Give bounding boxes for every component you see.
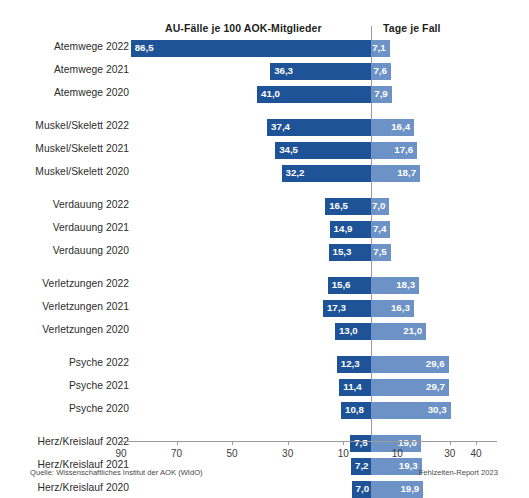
- row-label: Verletzungen 2021: [0, 301, 129, 312]
- bar-left: 14,9: [330, 221, 371, 238]
- bar-left: 10,8: [341, 402, 371, 419]
- bar-right: 7,0: [371, 198, 389, 215]
- bar-right-value: 29,7: [426, 381, 445, 392]
- bar-right-value: 17,6: [394, 144, 413, 155]
- bar-right-value: 21,0: [403, 325, 422, 336]
- bar-row: Verdauung 202015,37,5: [0, 244, 529, 261]
- axis-tick: [450, 441, 451, 445]
- bar-left-value: 12,3: [341, 358, 360, 369]
- axis-tick: [177, 441, 178, 445]
- bar-right-value: 7,5: [373, 246, 386, 257]
- bar-left-value: 11,4: [343, 381, 361, 392]
- bar-row: Psyche 202111,429,7: [0, 379, 529, 396]
- left-axis-title: AU-Fälle je 100 AOK-Mitglieder: [165, 22, 322, 34]
- bar-right: 18,3: [371, 277, 419, 294]
- bar-right-value: 7,0: [372, 200, 385, 211]
- axis-tick: [343, 441, 344, 445]
- bar-right: 7,9: [371, 86, 392, 103]
- row-label: Muskel/Skelett 2020: [0, 166, 129, 177]
- bar-left: 13,0: [335, 323, 371, 340]
- bar-row: Muskel/Skelett 202134,517,6: [0, 142, 529, 159]
- axis-tick: [121, 441, 122, 445]
- row-label: Atemwege 2022: [0, 41, 129, 52]
- bar-right: 16,4: [371, 119, 414, 136]
- bar-left-value: 15,6: [332, 279, 351, 290]
- row-label: Verdauung 2021: [0, 222, 129, 233]
- bar-left: 32,2: [282, 165, 371, 182]
- bar-right-value: 18,7: [397, 167, 416, 178]
- x-axis: 9070503010103040: [0, 441, 529, 471]
- bar-right: 7,1: [371, 40, 390, 57]
- bar-right: 29,7: [371, 379, 449, 396]
- bar-right: 29,6: [371, 356, 449, 373]
- bar-left-value: 10,8: [345, 404, 364, 415]
- bar-left: 17,3: [323, 300, 371, 317]
- report-note: Fehlzeiten-Report 2023: [419, 468, 498, 477]
- bar-left-value: 16,5: [329, 200, 348, 211]
- axis-tick-label: 50: [227, 448, 238, 459]
- bar-left: 36,3: [270, 63, 371, 80]
- bar-right-value: 29,6: [426, 358, 445, 369]
- bar-right: 17,6: [371, 142, 417, 159]
- row-label: Psyche 2021: [0, 380, 129, 391]
- bar-left-value: 36,3: [274, 65, 293, 76]
- bar-right-value: 7,6: [373, 65, 386, 76]
- bar-row: Verdauung 202216,57,0: [0, 198, 529, 215]
- bar-left-value: 32,2: [286, 167, 305, 178]
- bar-row: Atemwege 202286,57,1: [0, 40, 529, 57]
- bar-right-value: 30,3: [428, 404, 447, 415]
- row-label: Psyche 2022: [0, 357, 129, 368]
- axis-tick-label: 90: [115, 448, 126, 459]
- axis-tick-label: 30: [444, 448, 455, 459]
- bar-left: 15,6: [328, 277, 371, 294]
- bar-left: 12,3: [337, 356, 371, 373]
- bar-left-value: 34,5: [279, 144, 298, 155]
- bar-row: Verdauung 202114,97,4: [0, 221, 529, 238]
- bar-row: Atemwege 202136,37,6: [0, 63, 529, 80]
- bar-right: 30,3: [371, 402, 451, 419]
- axis-tick: [288, 441, 289, 445]
- axis-tick-label: 30: [282, 448, 293, 459]
- axis-tick: [397, 441, 398, 445]
- bar-right-value: 19,9: [400, 483, 419, 494]
- bar-left-value: 7,0: [356, 483, 369, 494]
- row-label: Atemwege 2020: [0, 87, 129, 98]
- bar-right: 7,5: [371, 244, 391, 261]
- bar-left-value: 37,4: [271, 121, 290, 132]
- bar-row: Atemwege 202041,07,9: [0, 86, 529, 103]
- bar-left: 15,3: [329, 244, 372, 261]
- bar-row: Verletzungen 202013,021,0: [0, 323, 529, 340]
- bar-right: 7,6: [371, 63, 391, 80]
- bar-row: Psyche 202212,329,6: [0, 356, 529, 373]
- chart-figure: AU-Fälle je 100 AOK-Mitglieder Tage je F…: [0, 0, 529, 498]
- bar-left-value: 17,3: [327, 302, 346, 313]
- bar-left: 34,5: [275, 142, 371, 159]
- bar-row: Muskel/Skelett 202237,416,4: [0, 119, 529, 136]
- source-note: Quelle: Wissenschaftliches Institut der …: [30, 468, 203, 477]
- bar-left: 86,5: [131, 40, 371, 57]
- row-label: Muskel/Skelett 2021: [0, 143, 129, 154]
- bar-right-value: 7,1: [372, 42, 385, 53]
- bar-right-value: 16,4: [391, 121, 410, 132]
- axis-tick-label: 10: [338, 448, 349, 459]
- bar-left: 11,4: [339, 379, 371, 396]
- axis-tick-label: 10: [392, 448, 403, 459]
- bar-left-value: 13,0: [339, 325, 358, 336]
- axis-tick: [476, 441, 477, 445]
- bar-right-value: 7,4: [373, 223, 386, 234]
- row-label: Psyche 2020: [0, 403, 129, 414]
- chart-footer: Quelle: Wissenschaftliches Institut der …: [0, 468, 529, 484]
- axis-tick: [232, 441, 233, 445]
- bar-left-value: 14,9: [334, 223, 353, 234]
- bar-left-value: 41,0: [261, 88, 280, 99]
- bar-right: 21,0: [371, 323, 426, 340]
- bar-right: 16,3: [371, 300, 414, 317]
- bar-right: 7,4: [371, 221, 390, 238]
- bar-left-value: 86,5: [135, 42, 154, 53]
- bar-right-value: 18,3: [396, 279, 415, 290]
- bar-row: Verletzungen 202117,316,3: [0, 300, 529, 317]
- row-label: Verdauung 2020: [0, 245, 129, 256]
- row-label: Verdauung 2022: [0, 199, 129, 210]
- right-axis-title: Tage je Fall: [383, 22, 441, 34]
- axis-tick-label: 70: [171, 448, 182, 459]
